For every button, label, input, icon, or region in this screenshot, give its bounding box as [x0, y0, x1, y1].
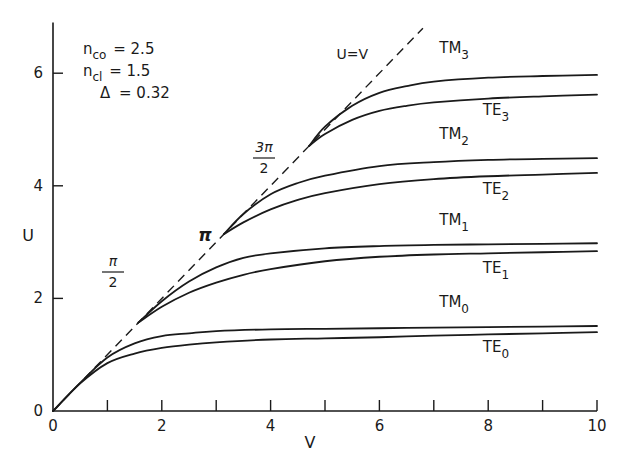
label-te1: TE1	[482, 259, 509, 282]
parameter-0: nco = 2.5	[83, 40, 154, 62]
cutoff-denominator: 2	[109, 274, 118, 290]
x-tick-label: 0	[48, 417, 58, 435]
label-te2: TE2	[482, 180, 509, 203]
cutoff-numerator: π	[109, 253, 118, 269]
parameter-legend: nco = 2.5ncl = 1.5Δ = 0.32	[83, 40, 170, 102]
label-tm0: TM0	[438, 293, 469, 316]
curve-tm1	[138, 243, 597, 322]
x-axis-label: V	[305, 433, 316, 452]
x-tick-label: 2	[157, 417, 167, 435]
cutoff-label-pi: π	[198, 225, 212, 245]
mode-curves	[53, 75, 597, 411]
x-tick-label: 8	[483, 417, 493, 435]
parameter-1: ncl = 1.5	[83, 62, 150, 84]
label-tm3: TM3	[438, 39, 469, 62]
cutoff-labels: π2π3π2	[102, 139, 275, 290]
curve-labels: TM0TE0TM1TE1TM2TE2TM3TE3	[438, 39, 509, 360]
x-tick-label: 4	[266, 417, 276, 435]
y-tick-label: 6	[33, 64, 43, 82]
cutoff-denominator: 2	[260, 160, 269, 176]
y-tick-label: 0	[33, 402, 43, 420]
y-tick-label: 4	[33, 177, 43, 195]
curve-te2	[224, 173, 597, 234]
axis-ticks: 02468100246	[33, 64, 606, 435]
label-tm2: TM2	[438, 125, 469, 148]
dispersion-chart: 02468100246 U=V TM0TE0TM1TE1TM2TE2TM3TE3…	[0, 0, 618, 458]
curve-tm2	[224, 158, 597, 234]
label-te3: TE3	[482, 101, 509, 124]
cutoff-numerator: 3π	[255, 139, 273, 155]
u-equals-v-label: U=V	[336, 46, 368, 62]
y-tick-label: 2	[33, 289, 43, 307]
x-tick-label: 6	[375, 417, 385, 435]
parameter-2: Δ = 0.32	[100, 84, 170, 102]
y-axis-label: U	[22, 226, 34, 245]
curve-te1	[138, 251, 597, 323]
label-tm1: TM1	[438, 211, 469, 234]
x-tick-label: 10	[587, 417, 606, 435]
label-te0: TE0	[482, 338, 509, 361]
